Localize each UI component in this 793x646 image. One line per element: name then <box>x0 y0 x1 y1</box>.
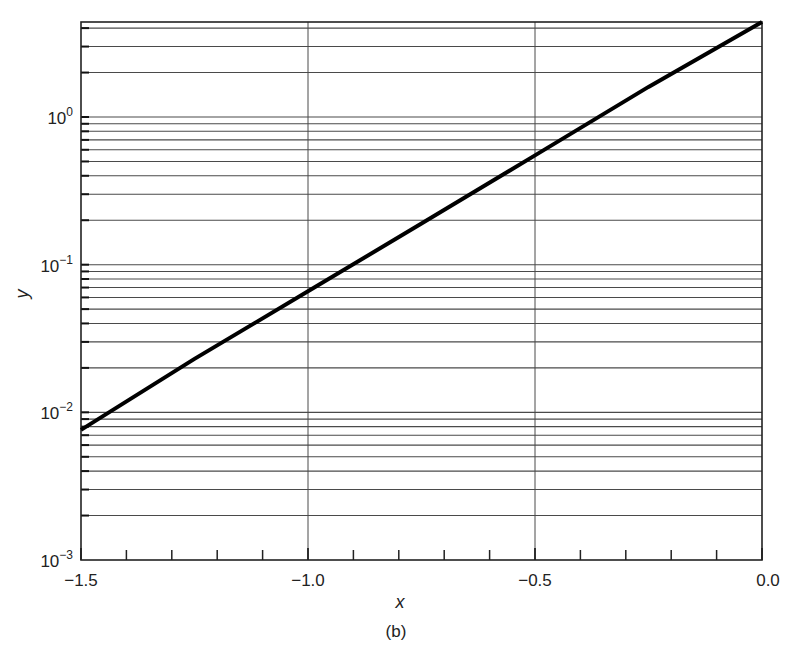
y-tick-label: 10−3 <box>40 548 73 571</box>
x-axis-label: x <box>395 592 406 612</box>
x-tick-label: 0.0 <box>756 571 780 590</box>
chart: 10−310−210−1100 −1.5−1.0−0.50.0 x y (b) <box>0 0 793 646</box>
x-tick-labels: −1.5−1.0−0.50.0 <box>64 571 780 590</box>
plot-frame <box>81 22 762 560</box>
x-tick-label: −1.5 <box>64 571 98 590</box>
x-minor-ticks <box>81 548 762 560</box>
figure-caption: (b) <box>386 622 407 641</box>
y-tick-label: 10−1 <box>40 253 73 276</box>
y-axis-label: y <box>12 289 32 301</box>
gridlines <box>81 22 762 560</box>
y-tick-label: 100 <box>47 105 73 128</box>
data-line <box>81 22 762 430</box>
y-tick-labels: 10−310−210−1100 <box>40 105 73 571</box>
x-tick-label: −0.5 <box>518 571 552 590</box>
y-tick-label: 10−2 <box>40 400 73 423</box>
x-tick-label: −1.0 <box>291 571 325 590</box>
